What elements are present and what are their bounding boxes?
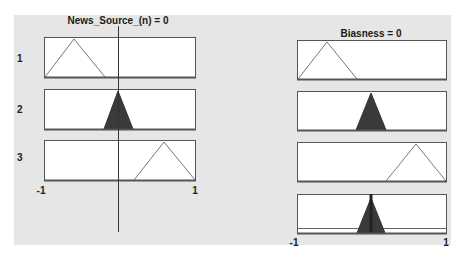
rule-label-3: 3 <box>17 152 23 163</box>
rule-label-1: 1 <box>17 53 23 64</box>
input-mf-plot-3[interactable] <box>44 140 196 182</box>
input-mf-plot-1[interactable] <box>44 37 196 79</box>
output-mf-plot-3[interactable] <box>297 142 447 183</box>
input-title: News_Source_(n) = 0 <box>68 15 169 26</box>
output-mf-plot-2[interactable] <box>297 91 447 132</box>
input-axis-min: -1 <box>37 185 46 196</box>
output-mf-plot-1[interactable] <box>297 40 447 81</box>
input-axis-max: 1 <box>192 185 198 196</box>
output-title: Biasness = 0 <box>341 28 402 39</box>
rule-label-2: 2 <box>17 104 23 115</box>
output-axis-min: -1 <box>290 237 299 248</box>
input-mf-plot-2[interactable] <box>44 89 196 131</box>
output-axis-max: 1 <box>443 237 449 248</box>
output-aggregate-plot[interactable] <box>297 194 447 235</box>
input-value-line[interactable] <box>117 26 120 232</box>
